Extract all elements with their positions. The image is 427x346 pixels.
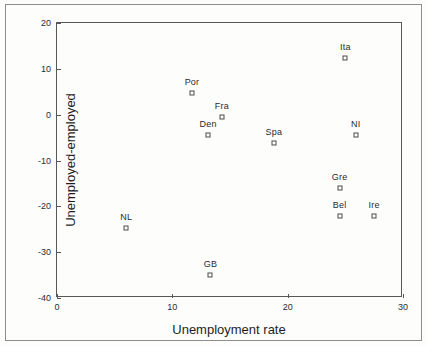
y-tick-mark	[57, 252, 61, 253]
data-point-marker	[189, 91, 194, 96]
y-tick-label: -20	[38, 201, 51, 211]
data-point-label: Fra	[215, 101, 229, 111]
data-point-label: NL	[120, 212, 132, 222]
x-tick-label: 0	[54, 302, 59, 312]
y-tick-label: 10	[41, 64, 51, 74]
x-tick-label: 10	[167, 302, 177, 312]
x-tick-mark	[172, 294, 173, 298]
y-tick-label: 0	[46, 110, 51, 120]
data-point-marker	[337, 213, 342, 218]
y-tick-mark	[57, 161, 61, 162]
data-point-marker	[343, 55, 348, 60]
scatter-chart-figure: Unemployed-employed Unemployment rate 20…	[0, 0, 427, 346]
plot-area: 20100-10-20-30-40 0102030 ItaPorFraDenNI…	[56, 22, 402, 297]
y-tick-mark	[57, 298, 61, 299]
data-point-label: Spa	[266, 127, 283, 137]
y-tick-label: 20	[41, 18, 51, 28]
data-point-label: Bel	[333, 200, 347, 210]
x-tick-label: 30	[398, 302, 408, 312]
y-tick-mark	[57, 206, 61, 207]
y-tick-label: -30	[38, 247, 51, 257]
data-point-marker	[124, 226, 129, 231]
data-point-marker	[372, 213, 377, 218]
data-point-marker	[353, 132, 358, 137]
data-point-marker	[206, 133, 211, 138]
x-axis-label: Unemployment rate	[56, 322, 402, 337]
y-tick-mark	[57, 23, 61, 24]
data-point-label: Por	[185, 77, 200, 87]
x-tick-mark	[57, 294, 58, 298]
data-point-label: GB	[204, 259, 217, 269]
x-tick-mark	[403, 294, 404, 298]
y-tick-mark	[57, 115, 61, 116]
y-axis-label-container: Unemployed-employed	[6, 22, 28, 297]
y-tick-label: -40	[38, 293, 51, 303]
x-tick-label: 20	[283, 302, 293, 312]
data-point-marker	[271, 141, 276, 146]
x-tick-mark	[288, 294, 289, 298]
data-point-label: Ire	[369, 200, 380, 210]
data-point-label: NI	[351, 119, 360, 129]
data-point-label: Den	[200, 119, 217, 129]
data-point-label: Gre	[332, 172, 348, 182]
data-point-marker	[208, 273, 213, 278]
data-point-marker	[219, 114, 224, 119]
y-tick-mark	[57, 69, 61, 70]
data-point-label: Ita	[340, 42, 351, 52]
y-tick-label: -10	[38, 156, 51, 166]
data-point-marker	[337, 185, 342, 190]
